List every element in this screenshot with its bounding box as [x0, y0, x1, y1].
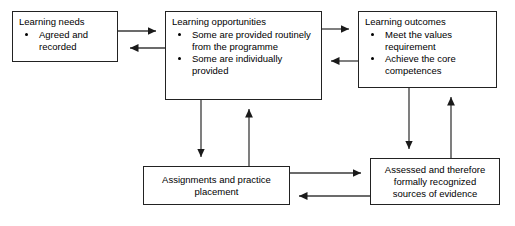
bullet-dot-icon: [25, 33, 28, 36]
bullet-dot-icon: [371, 33, 374, 36]
list-item-label: Meet the values requirement: [385, 29, 452, 52]
diagram-canvas: Learning needs Agreed and recorded Learn…: [0, 0, 515, 226]
list-item: Some are provided routinely from the pro…: [176, 29, 317, 52]
node-learning-needs[interactable]: Learning needs Agreed and recorded: [12, 11, 118, 62]
node-learning-outcomes-title: Learning outcomes: [359, 12, 496, 28]
bullet-dot-icon: [178, 57, 181, 60]
node-learning-outcomes[interactable]: Learning outcomes Meet the values requir…: [358, 11, 497, 88]
node-learning-needs-title: Learning needs: [13, 12, 117, 28]
node-assessed-sources-of-evidence[interactable]: Assessed and therefore formally recogniz…: [370, 158, 500, 205]
node-learning-needs-bullets: Agreed and recorded: [13, 29, 117, 52]
list-item-label: Some are provided routinely from the pro…: [192, 29, 311, 52]
node-learning-outcomes-bullets: Meet the values requirement Achieve the …: [359, 29, 496, 76]
node-assignments-label: Assignments and practice placement: [144, 167, 289, 204]
bullet-dot-icon: [371, 57, 374, 60]
node-assessed-label: Assessed and therefore formally recogniz…: [371, 159, 499, 204]
list-item-label: Some are individually provided: [192, 53, 282, 76]
bullet-dot-icon: [178, 33, 181, 36]
list-item: Achieve the core competences: [369, 53, 492, 76]
node-assignments-and-practice-placement[interactable]: Assignments and practice placement: [143, 166, 290, 205]
list-item: Some are individually provided: [176, 53, 317, 76]
node-learning-opportunities-title: Learning opportunities: [166, 12, 321, 28]
node-learning-opportunities-bullets: Some are provided routinely from the pro…: [166, 29, 321, 76]
list-item-label: Achieve the core competences: [385, 53, 456, 76]
list-item: Meet the values requirement: [369, 29, 492, 52]
list-item-label: Agreed and recorded: [39, 29, 88, 52]
list-item: Agreed and recorded: [23, 29, 113, 52]
node-learning-opportunities[interactable]: Learning opportunities Some are provided…: [165, 11, 322, 100]
